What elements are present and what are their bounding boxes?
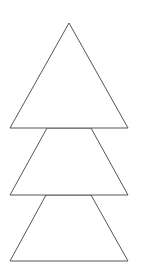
tree-diagram (0, 0, 142, 276)
top-triangle (10, 23, 128, 128)
middle-trapezoid (10, 128, 128, 195)
bottom-trapezoid (10, 195, 128, 261)
